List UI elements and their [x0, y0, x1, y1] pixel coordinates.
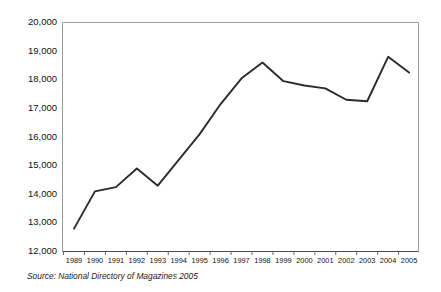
plot-frame [63, 23, 419, 252]
y-axis-tick-label: 14,000 [11, 189, 57, 199]
x-axis-ticks [64, 252, 399, 256]
y-axis-tick-label: 18,000 [11, 74, 57, 84]
line-chart-plot [0, 0, 441, 292]
chart-figure: 20,00019,00018,00017,00016,00015,00014,0… [0, 0, 441, 292]
y-axis-tick-label: 19,000 [11, 46, 57, 56]
x-axis-tick-label: 2005 [395, 256, 423, 266]
y-axis-tick-label: 17,000 [11, 103, 57, 113]
y-axis-tick-label: 15,000 [11, 160, 57, 170]
source-note: Source: National Directory of Magazines … [27, 271, 198, 281]
y-axis-tick-label: 12,000 [11, 246, 57, 256]
data-series-line [74, 57, 409, 229]
y-axis-tick-label: 13,000 [11, 217, 57, 227]
y-axis-tick-label: 20,000 [11, 17, 57, 27]
y-axis-tick-label: 16,000 [11, 132, 57, 142]
